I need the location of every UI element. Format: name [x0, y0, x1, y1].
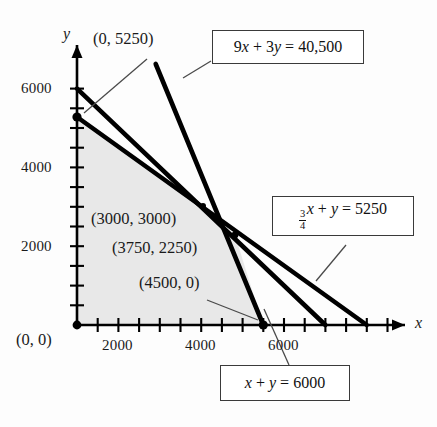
callout-box-xy6000: x + y = 6000: [220, 365, 350, 401]
leader-0-5250: [84, 59, 147, 113]
callout-text-xy6000: x + y = 6000: [245, 374, 325, 392]
point-3750-2250: [232, 232, 239, 239]
var-x: x: [242, 38, 249, 55]
y-tick-label-6000: 6000: [21, 81, 52, 96]
coef-9: 9: [234, 38, 242, 55]
plus-sign: +: [249, 38, 266, 55]
point-0-0: [73, 321, 82, 330]
y-tick-label-2000: 2000: [21, 239, 52, 254]
point-label-4500-0: (4500, 0): [139, 275, 200, 292]
y-tick-label-4000: 4000: [21, 160, 52, 175]
fraction-numerator: 3: [299, 209, 306, 220]
point-4500-0: [259, 320, 268, 329]
point-0-5250: [72, 112, 81, 121]
callout-text-075x: 34x + y = 5250: [299, 200, 387, 231]
leader-box-9x3y: [183, 61, 211, 78]
point-label-0-5250: (0, 5250): [93, 31, 154, 48]
x-tick-label-6000: 6000: [268, 338, 299, 353]
x-axis-arrowhead: [392, 320, 405, 331]
point-label-3000-3000: (3000, 3000): [91, 211, 176, 228]
y-axis-label: y: [63, 26, 70, 42]
leader-box-075x: [316, 245, 346, 281]
callout-rest-075x: x + y = 5250: [307, 200, 387, 217]
figure-canvas: y x 6000 4000 2000 2000 4000 6000 (0, 0)…: [0, 0, 437, 427]
x-tick-label-4000: 4000: [185, 338, 216, 353]
rhs-40500: 40,500: [298, 38, 342, 55]
callout-text-9x3y: 9x + 3y = 40,500: [234, 38, 342, 56]
fraction-denominator: 4: [299, 220, 306, 232]
callout-box-075x: 34x + y = 5250: [272, 196, 414, 236]
y-axis-arrowhead: [72, 45, 83, 58]
point-label-3750-2250: (3750, 2250): [112, 240, 197, 257]
equals-sign: =: [281, 38, 298, 55]
point-3000-3000: [200, 203, 206, 209]
x-axis-label: x: [415, 315, 422, 331]
callout-box-9x3y: 9x + 3y = 40,500: [212, 30, 364, 64]
x-tick-label-2000: 2000: [102, 338, 133, 353]
coef-3: 3: [266, 38, 274, 55]
fraction-three-quarters: 34: [299, 209, 306, 231]
origin-label: (0, 0): [16, 332, 52, 349]
